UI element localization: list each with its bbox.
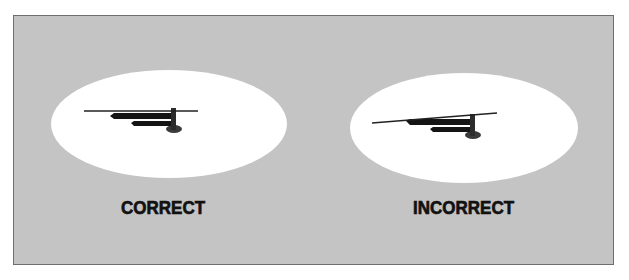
incorrect-label: INCORRECT [413,199,514,220]
diagram-canvas [0,0,629,280]
correct-panel [51,70,287,178]
correct-label: CORRECT [121,199,205,220]
incorrect-panel [350,73,578,183]
